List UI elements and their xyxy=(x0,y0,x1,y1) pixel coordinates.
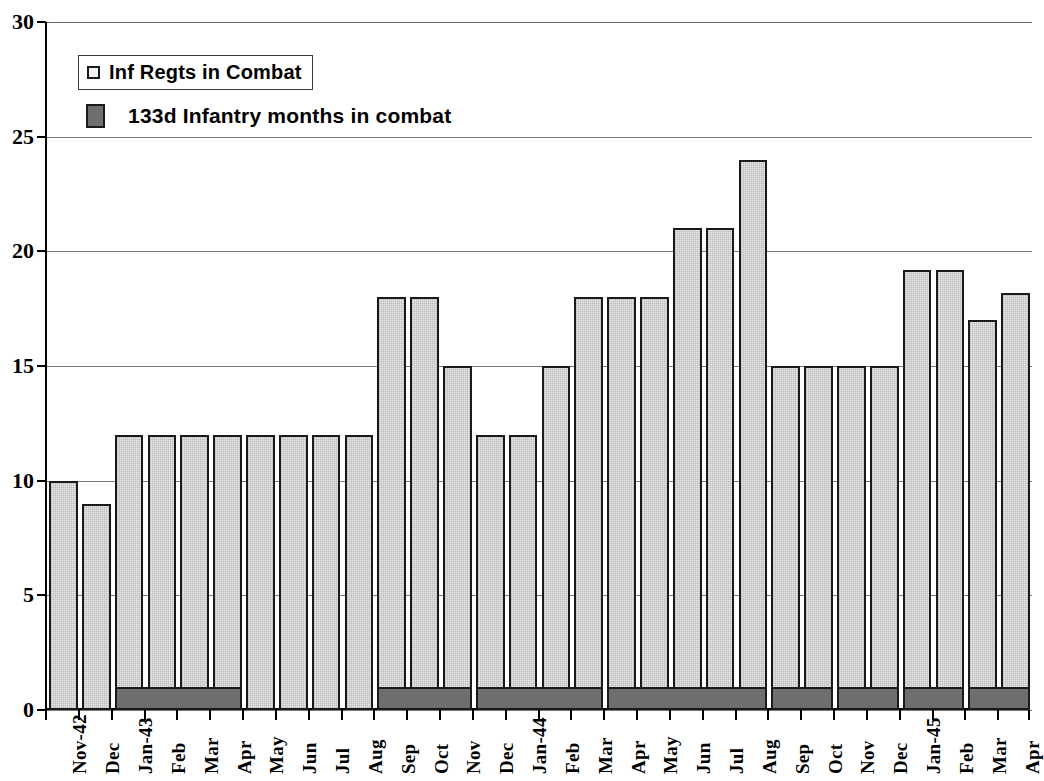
dark-swatch-icon xyxy=(86,104,105,128)
x-tick-mark xyxy=(669,710,671,720)
bar-inf-regts xyxy=(739,160,768,710)
x-tick-mark xyxy=(899,710,901,720)
bar-slot xyxy=(802,22,835,710)
bar-inf-regts xyxy=(837,366,866,710)
x-tick-label: Jul xyxy=(726,748,748,774)
x-tick-label: Aug xyxy=(365,739,387,774)
x-tick-label: Jun xyxy=(299,742,321,774)
bar-inf-regts xyxy=(542,366,571,710)
bar-133d-infantry xyxy=(837,687,899,710)
x-tick-label: Feb xyxy=(956,742,978,774)
x-tick-label: Dec xyxy=(496,743,518,775)
x-tick-mark xyxy=(341,710,343,720)
bar-inf-regts xyxy=(771,366,800,710)
bar-inf-regts xyxy=(377,297,406,710)
bar-inf-regts xyxy=(443,366,472,710)
x-tick-mark xyxy=(636,710,638,720)
y-tick-label-0: 0 xyxy=(0,699,34,721)
x-tick-label: May xyxy=(266,736,288,774)
bar-slot xyxy=(835,22,868,710)
x-tick-label: Mar xyxy=(201,737,223,774)
x-tick-mark xyxy=(176,710,178,720)
bar-inf-regts xyxy=(410,297,439,710)
bar-inf-regts xyxy=(607,297,636,710)
light-swatch-icon xyxy=(87,66,100,79)
x-tick-mark xyxy=(308,710,310,720)
x-tick-mark xyxy=(932,710,934,720)
bar-slot xyxy=(507,22,540,710)
bar-inf-regts xyxy=(804,366,833,710)
bar-inf-regts xyxy=(115,435,144,710)
x-tick-label: Nov xyxy=(463,740,485,774)
x-tick-label: Mar xyxy=(595,737,617,774)
x-tick-mark xyxy=(373,710,375,720)
y-tick-label-15: 15 xyxy=(0,355,34,377)
x-tick-label: Sep xyxy=(398,744,420,774)
gridline-0 xyxy=(47,710,1032,711)
x-tick-label: Oct xyxy=(825,744,847,774)
bar-inf-regts xyxy=(345,435,374,710)
y-tick-label-30: 30 xyxy=(0,11,34,33)
x-tick-mark xyxy=(735,710,737,720)
bar-inf-regts xyxy=(640,297,669,710)
legend-label-inf-regts: Inf Regts in Combat xyxy=(109,61,302,84)
x-tick-label: Jul xyxy=(332,748,354,774)
bar-133d-infantry xyxy=(771,687,833,710)
x-tick-mark xyxy=(406,710,408,720)
bar-inf-regts xyxy=(903,270,932,710)
x-tick-label: Dec xyxy=(102,743,124,775)
x-tick-mark xyxy=(505,710,507,720)
x-tick-mark xyxy=(1028,710,1030,720)
y-tick-label-5: 5 xyxy=(0,584,34,606)
x-tick-mark xyxy=(570,710,572,720)
bar-133d-infantry xyxy=(968,687,1030,710)
bar-slot xyxy=(47,22,80,710)
bar-inf-regts xyxy=(673,228,702,710)
bar-133d-infantry xyxy=(115,687,242,710)
x-tick-label: Nov-42 xyxy=(69,714,91,774)
x-tick-label: Aug xyxy=(759,739,781,774)
bar-133d-infantry xyxy=(903,687,965,710)
x-tick-mark xyxy=(439,710,441,720)
bar-slot xyxy=(934,22,967,710)
y-tick-label-25: 25 xyxy=(0,126,34,148)
bar-inf-regts xyxy=(82,504,111,710)
bar-inf-regts xyxy=(1001,293,1030,710)
x-tick-label: Apr xyxy=(234,740,256,774)
x-tick-mark xyxy=(275,710,277,720)
bar-inf-regts xyxy=(870,366,899,710)
legend-item-inf-regts: Inf Regts in Combat xyxy=(78,55,313,90)
legend-item-133d-infantry: 133d Infantry months in combat xyxy=(78,104,451,128)
chart-legend: Inf Regts in Combat 133d Infantry months… xyxy=(78,55,451,128)
bar-slot xyxy=(572,22,605,710)
bar-inf-regts xyxy=(936,270,965,710)
bar-inf-regts xyxy=(246,435,275,710)
bar-inf-regts xyxy=(279,435,308,710)
x-tick-label: Apr xyxy=(1022,740,1044,774)
x-tick-label: Jan-44 xyxy=(529,717,551,774)
y-tick-label-10: 10 xyxy=(0,470,34,492)
bar-slot xyxy=(737,22,770,710)
x-tick-label: Jan-45 xyxy=(923,717,945,774)
x-tick-mark xyxy=(702,710,704,720)
x-tick-mark xyxy=(45,710,47,720)
bar-slot xyxy=(966,22,999,710)
x-tick-label: Apr xyxy=(628,740,650,774)
bar-133d-infantry xyxy=(607,687,767,710)
bar-slot xyxy=(638,22,671,710)
bar-slot xyxy=(901,22,934,710)
x-tick-label: Jun xyxy=(693,742,715,774)
x-tick-mark xyxy=(833,710,835,720)
legend-label-133d-infantry: 133d Infantry months in combat xyxy=(128,104,451,128)
x-tick-label: Oct xyxy=(431,744,453,774)
bar-slot xyxy=(769,22,802,710)
y-tick-label-20: 20 xyxy=(0,240,34,262)
bar-inf-regts xyxy=(213,435,242,710)
x-tick-label: Feb xyxy=(562,742,584,774)
bar-slot xyxy=(999,22,1032,710)
x-tick-label: Sep xyxy=(792,744,814,774)
x-tick-mark xyxy=(800,710,802,720)
x-tick-label: Jan-43 xyxy=(135,717,157,774)
bar-inf-regts xyxy=(312,435,341,710)
